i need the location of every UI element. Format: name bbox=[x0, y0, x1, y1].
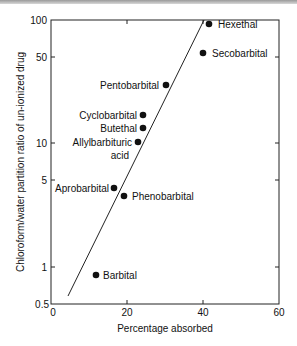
label-cyclobarbital: Cyclobarbital bbox=[79, 110, 137, 121]
label-pentobarbital: Pentobarbital bbox=[100, 80, 159, 91]
label-acid: acid bbox=[111, 150, 129, 161]
point-phenobarbital bbox=[121, 193, 128, 200]
point-secobarbital bbox=[200, 50, 207, 57]
label-butethal: Butethal bbox=[100, 123, 137, 134]
x-tick-0: 0 bbox=[50, 307, 56, 318]
y-tick-5: 5 bbox=[41, 175, 47, 186]
point-butethal bbox=[140, 125, 147, 132]
scatter-chart: 100 50 10 5 1 0.5 0 20 40 60 Percentage … bbox=[0, 0, 297, 346]
x-axis-title: Percentage absorbed bbox=[117, 323, 213, 334]
y-tick-100: 100 bbox=[30, 15, 47, 26]
point-hexethal bbox=[206, 21, 213, 28]
trend-line bbox=[68, 20, 204, 296]
label-hexethal: Hexethal bbox=[218, 19, 257, 30]
x-tick-20: 20 bbox=[121, 307, 133, 318]
y-axis-title: Chloroform/water partition ratio of un-i… bbox=[15, 52, 26, 272]
point-allylbarbituric-acid bbox=[135, 139, 142, 146]
label-aprobarbital: Aprobarbital bbox=[55, 183, 109, 194]
label-barbital: Barbital bbox=[103, 270, 137, 281]
x-tick-60: 60 bbox=[273, 307, 285, 318]
y-tick-10: 10 bbox=[36, 138, 48, 149]
point-pentobarbital bbox=[163, 82, 170, 89]
y-tick-0-5: 0.5 bbox=[35, 299, 49, 310]
label-phenobarbital: Phenobarbital bbox=[132, 191, 194, 202]
label-allylbarbituric: Allylbarbituric bbox=[73, 137, 132, 148]
point-barbital bbox=[93, 272, 100, 279]
point-cyclobarbital bbox=[140, 112, 147, 119]
label-secobarbital: Secobarbital bbox=[212, 48, 268, 59]
y-tick-1: 1 bbox=[41, 262, 47, 273]
x-tick-40: 40 bbox=[197, 307, 209, 318]
point-aprobarbital bbox=[111, 185, 118, 192]
y-tick-50: 50 bbox=[36, 52, 48, 63]
